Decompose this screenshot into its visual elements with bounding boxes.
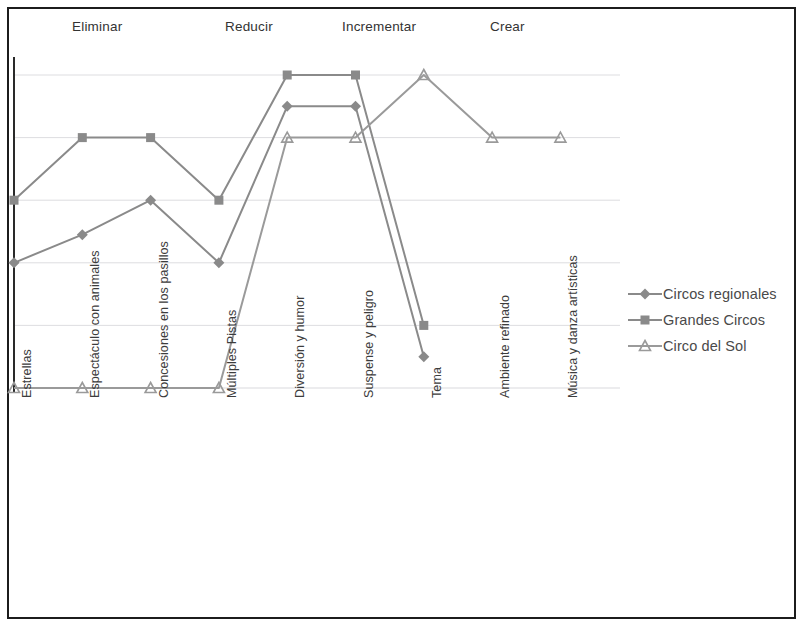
data-point-marker [282, 101, 293, 112]
legend-label-0: Circos regionales [663, 286, 777, 302]
data-point-marker [146, 133, 155, 142]
data-point-marker [77, 229, 88, 240]
data-point-marker [9, 257, 20, 268]
chart-legend: Circos regionalesGrandes CircosCirco del… [628, 281, 800, 359]
legend-item-1: Grandes Circos [628, 307, 800, 333]
x-axis-label-0: Estrellas [20, 349, 34, 398]
legend-item-2: Circo del Sol [628, 333, 800, 359]
x-axis-label-5: Suspense y peligro [362, 290, 376, 398]
square-marker-icon [628, 313, 662, 327]
x-axis-label-7: Ambiente refinado [498, 295, 512, 398]
x-axis-label-8: Música y danza artísticas [566, 255, 580, 398]
x-axis-label-3: Múltiples Pistas [225, 310, 239, 398]
data-point-marker [283, 71, 292, 80]
legend-item-0: Circos regionales [628, 281, 800, 307]
data-point-marker [418, 351, 429, 362]
x-axis-label-6: Tema [430, 367, 444, 398]
legend-label-1: Grandes Circos [663, 312, 765, 328]
x-axis-label-4: Diversión y humor [293, 296, 307, 398]
data-point-marker [350, 101, 361, 112]
data-point-marker [214, 196, 223, 205]
data-point-marker [10, 196, 19, 205]
triangle-marker-icon [628, 339, 662, 353]
diamond-marker-icon [628, 287, 662, 301]
data-point-marker [351, 71, 360, 80]
data-point-marker [78, 133, 87, 142]
x-axis-label-2: Concesiones en los pasillos [157, 241, 171, 398]
legend-label-2: Circo del Sol [663, 338, 747, 354]
data-point-marker [419, 321, 428, 330]
x-axis-label-1: Espectáculo con animales [88, 250, 102, 398]
